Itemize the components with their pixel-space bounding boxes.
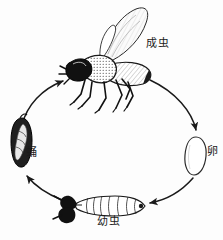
arrow-adult-to-egg bbox=[150, 80, 196, 130]
arrow-egg-to-larva bbox=[150, 178, 193, 203]
insect-life-cycle-diagram: 成虫 卵 幼虫 蛹 bbox=[0, 0, 223, 240]
stage-label-larva: 幼虫 bbox=[97, 216, 120, 227]
life-cycle-illustration bbox=[0, 0, 223, 240]
stage-label-egg: 卵 bbox=[207, 146, 219, 157]
stage-label-adult: 成虫 bbox=[146, 38, 169, 49]
pupa-puparium-icon bbox=[11, 114, 32, 167]
egg-icon bbox=[185, 137, 206, 175]
arrow-pupa-to-adult bbox=[22, 81, 63, 125]
stage-label-pupa: 蛹 bbox=[26, 147, 38, 158]
arrow-larva-to-pupa bbox=[27, 176, 62, 200]
adult-fly-icon bbox=[59, 8, 151, 113]
cycle-arrows bbox=[22, 80, 196, 203]
